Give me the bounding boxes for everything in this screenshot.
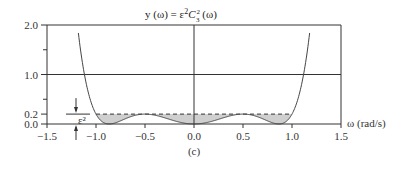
y-tick-label: 0.2 <box>24 108 38 120</box>
x-tick-label: −1.0 <box>86 130 106 142</box>
figure-caption: (c) <box>188 145 201 158</box>
y-tick-label: 2.0 <box>24 19 38 31</box>
x-tick-label: −1.5 <box>37 130 57 142</box>
chart-title: y (ω) = ε2C23 (ω) <box>145 7 217 24</box>
x-axis-label: ω (rad/s) <box>347 117 386 130</box>
x-tick-label: 1.0 <box>285 130 299 142</box>
x-tick-label: 0.0 <box>187 130 201 142</box>
epsilon-label: ε² <box>78 114 87 126</box>
x-tick-label: 1.5 <box>334 130 348 142</box>
chebyshev-chart: y (ω) = ε2C23 (ω) 0.00.21.02.0−1.5−1.0−0… <box>0 0 407 173</box>
plot-area: 0.00.21.02.0−1.5−1.0−0.50.00.51.01.5ω (r… <box>24 19 386 158</box>
x-tick-label: 0.5 <box>236 130 250 142</box>
x-tick-label: −0.5 <box>135 130 155 142</box>
arrow-down-icon <box>74 107 78 113</box>
y-tick-label: 1.0 <box>24 69 38 81</box>
